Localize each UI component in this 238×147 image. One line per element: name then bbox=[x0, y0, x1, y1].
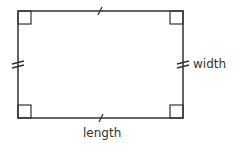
right-angle-top-right bbox=[170, 11, 183, 24]
tick-marks bbox=[12, 7, 189, 122]
right-angle-bottom-right bbox=[170, 105, 183, 118]
right-angle-marks bbox=[18, 11, 183, 118]
right-angle-top-left bbox=[18, 11, 31, 24]
length-label: length bbox=[83, 126, 121, 140]
right-angle-bottom-left bbox=[18, 105, 31, 118]
rectangle bbox=[18, 11, 183, 118]
width-label: width bbox=[193, 57, 226, 71]
rectangle-diagram: width length bbox=[0, 0, 238, 147]
